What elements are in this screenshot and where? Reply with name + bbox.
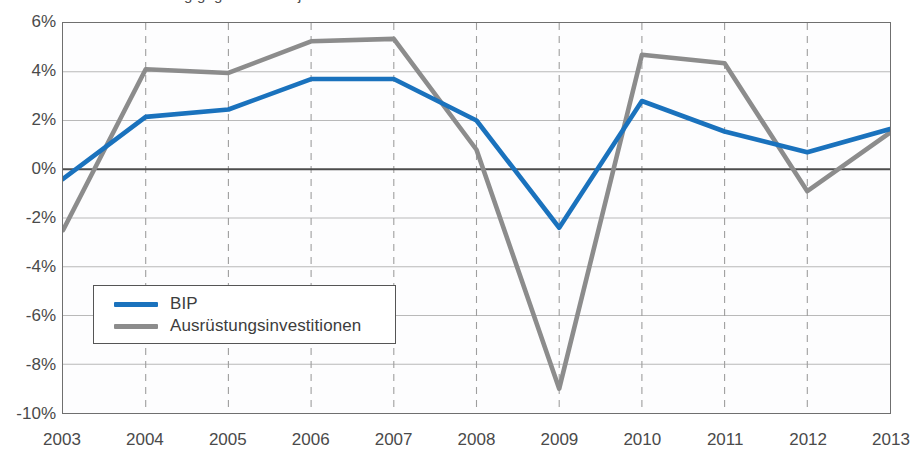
legend-item-ausruestungsinvestitionen: Ausrüstungsinvestitionen: [114, 315, 395, 337]
y-tick-label: -10%: [0, 404, 56, 424]
plot-svg: [63, 23, 890, 413]
chart-title: Reale Veränderung gegenüber Vorjahr: [0, 0, 893, 4]
x-tick-label: 2011: [707, 430, 744, 450]
x-tick-label: 2004: [126, 430, 164, 450]
x-tick-label: 2007: [375, 430, 413, 450]
y-tick-label: -2%: [0, 208, 56, 228]
x-tick-label: 2003: [43, 430, 81, 450]
x-tick-label: 2006: [292, 430, 330, 450]
legend-swatch-ausruestungsinvestitionen: [114, 324, 158, 329]
legend-label-ausruestungsinvestitionen: Ausrüstungsinvestitionen: [170, 316, 361, 336]
y-tick-label: 2%: [0, 110, 56, 130]
y-tick-label: -4%: [0, 257, 56, 277]
x-axis-tick-labels: 2003200420052006200720082009201020112012…: [0, 424, 893, 461]
x-tick-label: 2012: [789, 430, 827, 450]
x-tick-label: 2009: [540, 430, 578, 450]
legend-label-bip: BIP: [170, 294, 198, 314]
x-tick-label: 2008: [458, 430, 496, 450]
legend-swatch-bip: [114, 302, 158, 307]
x-tick-label: 2010: [623, 430, 661, 450]
y-tick-label: 0%: [0, 159, 56, 179]
chart-legend: BIP Ausrüstungsinvestitionen: [93, 285, 396, 344]
y-axis-tick-labels: 6%4%2%0%-2%-4%-6%-8%-10%: [0, 0, 56, 461]
y-tick-label: -6%: [0, 306, 56, 326]
y-tick-label: -8%: [0, 355, 56, 375]
x-tick-label: 2013: [872, 430, 910, 450]
plot-area: [62, 22, 891, 414]
y-tick-label: 6%: [0, 12, 56, 32]
y-tick-label: 4%: [0, 61, 56, 81]
legend-item-bip: BIP: [114, 293, 395, 315]
x-tick-label: 2005: [209, 430, 247, 450]
